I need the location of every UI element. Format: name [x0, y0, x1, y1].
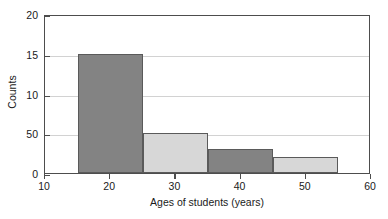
histogram-figure: 050101520 Counts 102030405060 Ages of st… [0, 0, 388, 219]
x-axis-tick-label: 60 [364, 181, 376, 192]
plot-area [44, 15, 370, 174]
y-axis-tick-label: 20 [26, 10, 38, 21]
x-axis-title: Ages of students (years) [44, 196, 370, 208]
x-axis-tick-label: 50 [299, 181, 311, 192]
x-axis-tick-mark [305, 174, 306, 179]
x-axis-tick-mark [174, 174, 175, 179]
histogram-bar [143, 133, 208, 173]
x-axis-tick-label: 30 [169, 181, 181, 192]
bars [45, 16, 369, 173]
x-axis-tick-labels: 102030405060 [44, 181, 370, 195]
y-axis-tick-label: 50 [26, 129, 38, 140]
y-axis-title: Counts [6, 57, 18, 127]
x-axis-tick-mark [370, 174, 371, 179]
x-axis-tick-label: 10 [38, 181, 50, 192]
x-axis-tick-label: 20 [103, 181, 115, 192]
histogram-bar [78, 54, 143, 173]
y-axis-tick-label: 10 [26, 90, 38, 101]
y-axis-tick-label: 0 [32, 169, 38, 180]
x-axis-tick-mark [109, 174, 110, 179]
x-axis-tick-mark [44, 174, 45, 179]
x-axis-tick-mark [240, 174, 241, 179]
x-axis-ticks [44, 174, 370, 180]
histogram-bar [273, 157, 338, 173]
y-axis-tick-label: 15 [26, 50, 38, 61]
histogram-bar [208, 149, 273, 173]
x-axis-tick-label: 40 [234, 181, 246, 192]
